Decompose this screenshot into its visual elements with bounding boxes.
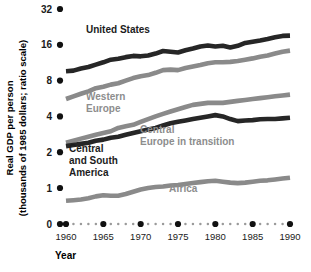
x-tick-dot-minor: [87, 223, 90, 226]
x-tick-dot-minor: [110, 223, 113, 226]
series-label-line: Europe in transition: [140, 136, 234, 147]
x-tick-dot-minor: [266, 223, 269, 226]
y-tick-label: 8: [46, 75, 52, 86]
x-tick-dot-minor: [184, 223, 187, 226]
x-tick-label: 1975: [167, 231, 188, 242]
x-tick-dot-minor: [80, 223, 83, 226]
series-label-line: and South: [69, 155, 118, 166]
y-tick-dot: [57, 149, 63, 155]
series-label-united-states: United States: [86, 24, 150, 35]
y-tick-label: 2: [46, 147, 52, 158]
y-tick-label: 1: [46, 183, 52, 194]
y-tick-dot: [57, 42, 63, 48]
y-axis-title-line2: (thousands of 1985 dollars; ratio scale): [17, 40, 28, 216]
x-tick-label: 1985: [242, 231, 263, 242]
x-tick-dot-minor: [117, 223, 120, 226]
x-tick-dot-minor: [169, 223, 172, 226]
y-axis-tick-dots: [57, 6, 63, 227]
x-tick-label: 1960: [55, 231, 76, 242]
series-line-united-states: [66, 36, 290, 72]
x-tick-dot-major: [250, 221, 256, 227]
x-tick-label: 1980: [205, 231, 226, 242]
x-tick-dot-minor: [229, 223, 232, 226]
x-tick-dot-minor: [222, 223, 225, 226]
x-tick-dot-minor: [147, 223, 150, 226]
y-tick-label: 0: [46, 219, 52, 230]
y-tick-label: 16: [41, 39, 53, 50]
x-tick-dot-minor: [162, 223, 165, 226]
x-axis-title: Year: [55, 250, 76, 261]
series-label-line: Western: [86, 91, 125, 102]
x-tick-dot-minor: [72, 223, 75, 226]
x-tick-dot-major: [175, 221, 181, 227]
x-tick-label: 1990: [279, 231, 300, 242]
y-tick-dot: [57, 78, 63, 84]
y-axis-tick-labels: 012481632: [41, 4, 53, 230]
series-label-africa: Africa: [169, 183, 198, 194]
series-label-line: Central: [140, 124, 175, 135]
x-tick-label: 1970: [130, 231, 151, 242]
y-axis-title-line1: Real GDP per person: [4, 80, 15, 175]
x-axis-tick-labels: 1960196519701975198019851990: [55, 231, 300, 242]
y-tick-label: 4: [46, 111, 52, 122]
series-label-line: Africa: [169, 183, 198, 194]
x-tick-dot-minor: [132, 223, 135, 226]
x-tick-dot-minor: [199, 223, 202, 226]
x-tick-dot-minor: [259, 223, 262, 226]
y-axis-title: Real GDP per person(thousands of 1985 do…: [4, 40, 28, 216]
series-label-line: America: [69, 167, 109, 178]
x-tick-dot-major: [212, 221, 218, 227]
x-axis-dot-rule: [63, 221, 293, 227]
x-tick-dot-major: [63, 221, 69, 227]
series-labels: United StatesWesternEuropeCentralEurope …: [69, 24, 234, 194]
y-tick-dot: [57, 185, 63, 191]
series-label-line: Central: [69, 143, 104, 154]
x-tick-dot-minor: [244, 223, 247, 226]
series-label-western-europe: WesternEurope: [86, 91, 125, 114]
y-tick-dot: [57, 6, 63, 12]
series-label-line: United States: [86, 24, 150, 35]
series-label-central-europe-in-transition: CentralEurope in transition: [140, 124, 234, 147]
x-tick-dot-minor: [236, 223, 239, 226]
x-tick-dot-major: [100, 221, 106, 227]
series-label-central-and-south-america: Centraland SouthAmerica: [69, 143, 118, 178]
x-axis-title-text: Year: [55, 250, 76, 261]
series-label-line: Europe: [86, 103, 121, 114]
x-tick-dot-minor: [192, 223, 195, 226]
x-tick-dot-minor: [95, 223, 98, 226]
x-tick-dot-minor: [154, 223, 157, 226]
gdp-per-person-chart: Real GDP per person(thousands of 1985 do…: [0, 0, 311, 272]
y-tick-dot: [57, 113, 63, 119]
y-tick-label: 32: [41, 4, 53, 15]
x-tick-dot-minor: [124, 223, 127, 226]
x-tick-dot-minor: [281, 223, 284, 226]
x-tick-dot-minor: [207, 223, 210, 226]
x-tick-dot-major: [138, 221, 144, 227]
y-tick-dot: [57, 221, 63, 227]
x-tick-dot-minor: [274, 223, 277, 226]
x-tick-label: 1965: [93, 231, 114, 242]
x-tick-dot-major: [287, 221, 293, 227]
chart-canvas: Real GDP per person(thousands of 1985 do…: [0, 0, 311, 272]
